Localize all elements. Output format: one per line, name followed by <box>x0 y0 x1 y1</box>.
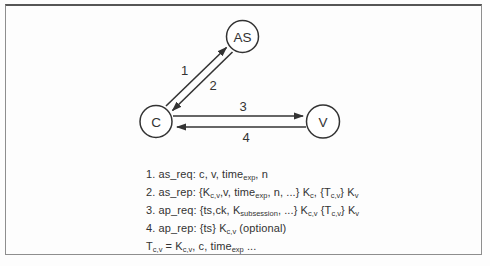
legend-text: (optional) <box>236 222 286 234</box>
legend-text: , {T <box>314 186 331 198</box>
legend-text: , ...} K <box>278 204 308 216</box>
legend-text: = K <box>162 240 182 252</box>
message-legend: 1. as_req: c, v, timeexp, n 2. as_rep: {… <box>146 167 359 257</box>
subscript-text: c,v <box>183 245 193 254</box>
legend-text: , c, time <box>192 240 231 252</box>
node-v-label: V <box>318 115 327 130</box>
legend-text: 2. as_rep: {K <box>146 186 210 198</box>
edge-label-3: 3 <box>239 99 246 114</box>
subscript-text: exp <box>232 245 244 254</box>
legend-text: , n <box>255 168 268 180</box>
subscript-text: c,v <box>210 191 220 200</box>
edge-label-4: 4 <box>242 130 249 145</box>
legend-line-ap-req: 3. ap_req: {ts,ck, Ksubsession, ...} Kc,… <box>146 203 359 221</box>
legend-text: 3. ap_req: {ts,ck, K <box>146 204 240 216</box>
subscript-text: c,v <box>227 227 237 236</box>
figure: 1 2 3 4 AS C V 1. as_req: c, v, timeexp,… <box>0 0 490 266</box>
subscript-text: c,v <box>153 245 163 254</box>
subscript-text: v <box>355 209 359 218</box>
legend-line-ap-rep: 4. ap_rep: {ts} Kc,v (optional) <box>146 221 359 239</box>
legend-text: } K <box>340 186 354 198</box>
subscript-text: exp <box>243 173 255 182</box>
legend-text: {T <box>318 204 332 216</box>
subscript-text: v <box>355 191 359 200</box>
edge-as-to-c <box>173 52 233 111</box>
legend-line-as-req: 1. as_req: c, v, timeexp, n <box>146 167 359 185</box>
subscript-text: c,v <box>331 191 341 200</box>
legend-text: , n, ...} K <box>267 186 310 198</box>
legend-text: } K <box>341 204 355 216</box>
legend-text: ,v, time <box>220 186 255 198</box>
legend-text: ... <box>244 240 257 252</box>
edge-label-2: 2 <box>209 78 216 93</box>
subscript-text: exp <box>255 191 267 200</box>
legend-line-as-rep: 2. as_rep: {Kc,v,v, timeexp, n, ...} Kc,… <box>146 185 359 203</box>
subscript-text: c,v <box>308 209 318 218</box>
legend-text: 1. as_req: c, v, time <box>146 168 243 180</box>
subscript-text: c,v <box>331 209 341 218</box>
subscript-text: subsession <box>240 209 278 218</box>
node-c-label: C <box>151 115 161 130</box>
legend-text: T <box>146 240 153 252</box>
legend-text: 4. ap_rep: {ts} K <box>146 222 227 234</box>
edge-label-1: 1 <box>181 63 188 78</box>
legend-line-ticket-def: Tc,v = Kc,v, c, timeexp ... <box>146 239 359 257</box>
edge-c-to-as <box>166 48 227 107</box>
node-as-label: AS <box>233 30 251 45</box>
